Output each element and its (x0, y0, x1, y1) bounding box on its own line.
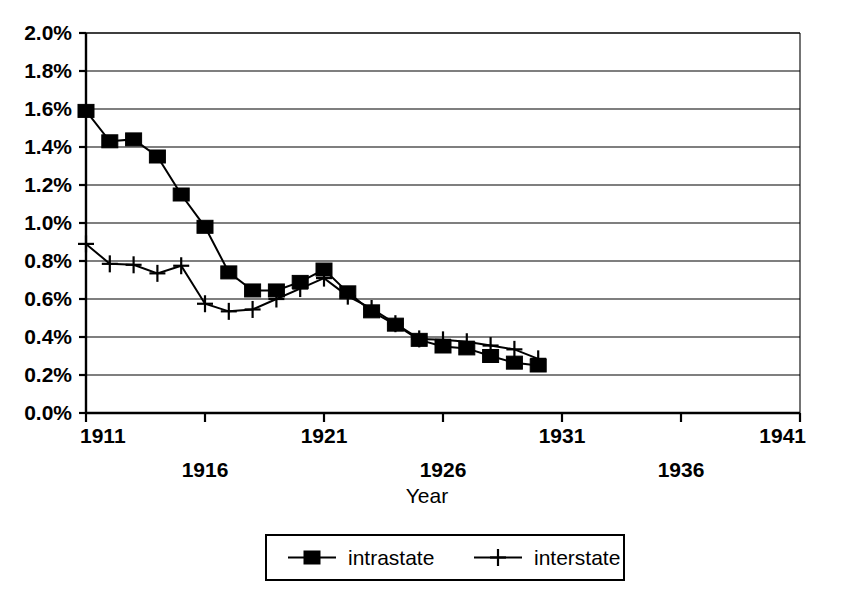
y-tick-label-0.6: 0.6% (24, 287, 72, 310)
data-point-interstate-1915 (173, 257, 189, 274)
x-tick-label-1936: 1936 (658, 458, 705, 481)
y-tick-label-1.8: 1.8% (24, 59, 72, 82)
chart-container: 0.0%0.2%0.4%0.6%0.8%1.0%1.2%1.4%1.6%1.8%… (0, 0, 845, 604)
y-tick-label-1.6: 1.6% (24, 97, 72, 120)
legend: intrastateinterstate (266, 535, 624, 580)
x-tick-label-1921: 1921 (301, 424, 348, 447)
legend-label-interstate: interstate (534, 546, 620, 569)
y-tick-label-0.2: 0.2% (24, 363, 72, 386)
gridlines (86, 33, 800, 375)
data-point-intrastate-1916 (197, 220, 213, 233)
x-axis-tick-labels: 1911191619211926193119361941 (80, 424, 806, 481)
x-tick-label-1931: 1931 (539, 424, 586, 447)
x-tick-label-1926: 1926 (420, 458, 467, 481)
data-point-interstate-1914 (149, 265, 165, 282)
data-point-intrastate-1914 (149, 150, 165, 163)
data-point-intrastate-1929 (506, 356, 522, 369)
y-tick-label-0.8: 0.8% (24, 249, 72, 272)
data-point-intrastate-1918 (245, 284, 261, 297)
x-tick-label-1911: 1911 (80, 424, 126, 447)
y-tick-label-1.4: 1.4% (24, 135, 72, 158)
y-tick-label-2.0: 2.0% (24, 21, 72, 44)
x-tick-label-1916: 1916 (182, 458, 229, 481)
data-point-intrastate-1912 (102, 135, 118, 148)
x-axis-title-text: Year (406, 484, 448, 507)
data-point-intrastate-1913 (126, 133, 142, 146)
y-tick-label-1.2: 1.2% (24, 173, 72, 196)
data-point-intrastate-1917 (221, 266, 237, 279)
y-tick-label-1.0: 1.0% (24, 211, 72, 234)
y-axis-tick-labels: 0.0%0.2%0.4%0.6%0.8%1.0%1.2%1.4%1.6%1.8%… (24, 21, 86, 424)
data-point-intrastate-1915 (173, 188, 189, 201)
data-point-interstate-1918 (245, 301, 261, 318)
legend-label-intrastate: intrastate (348, 546, 434, 569)
series-line-intrastate (86, 111, 538, 366)
data-point-interstate-1917 (221, 303, 237, 320)
data-series (78, 104, 546, 372)
data-point-interstate-1913 (126, 256, 142, 273)
x-tick-label-1941: 1941 (759, 424, 806, 447)
series-interstate (78, 235, 546, 367)
y-tick-label-0.0: 0.0% (24, 401, 72, 424)
x-axis-ticks (86, 413, 800, 422)
data-point-interstate-1929 (506, 341, 522, 358)
y-tick-label-0.4: 0.4% (24, 325, 72, 348)
line-chart: 0.0%0.2%0.4%0.6%0.8%1.0%1.2%1.4%1.6%1.8%… (0, 0, 845, 604)
x-axis-title: Year (406, 484, 448, 507)
data-point-interstate-1916 (197, 295, 213, 312)
data-point-intrastate-1911 (78, 104, 94, 117)
legend-square-icon (304, 551, 320, 564)
series-intrastate (78, 104, 546, 372)
